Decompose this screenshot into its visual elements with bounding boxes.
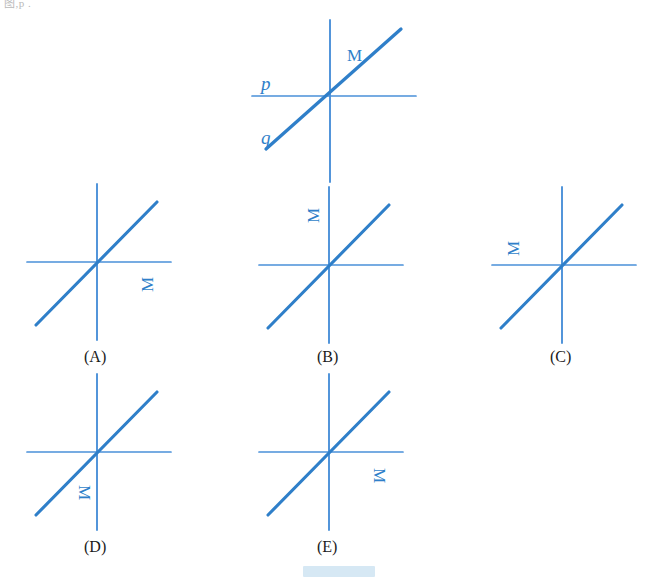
option-letter-c: (C) bbox=[550, 348, 571, 366]
option-a-label-m: M bbox=[139, 277, 156, 292]
option-panel-c[interactable]: M bbox=[492, 185, 642, 345]
footer-watermark-bar bbox=[303, 566, 375, 577]
option-e-label-m: M bbox=[371, 468, 388, 483]
option-d-label-m: M bbox=[76, 485, 93, 500]
option-b-svg bbox=[259, 185, 409, 345]
reference-diagram: M p q bbox=[240, 14, 430, 194]
option-letter-b: (B) bbox=[317, 348, 338, 366]
option-c-svg bbox=[492, 185, 642, 345]
option-letter-a: (A) bbox=[84, 348, 106, 366]
option-letter-e: (E) bbox=[317, 538, 337, 556]
option-panel-a[interactable]: M bbox=[27, 182, 177, 342]
reference-label-q: q bbox=[261, 128, 271, 147]
option-panel-d[interactable]: M bbox=[27, 372, 177, 532]
option-panel-e[interactable]: M bbox=[259, 372, 409, 532]
corner-caption: 图,p . bbox=[4, 0, 31, 10]
option-e-svg bbox=[259, 372, 409, 532]
reference-label-p: p bbox=[261, 74, 271, 93]
reference-label-m: M bbox=[347, 47, 362, 64]
figure-page: 图,p . M p q M (A) M bbox=[0, 0, 667, 580]
option-d-svg bbox=[27, 372, 177, 532]
option-panel-b[interactable]: M bbox=[259, 185, 409, 345]
reference-diagram-svg bbox=[240, 14, 430, 194]
option-c-label-m: M bbox=[505, 241, 522, 256]
option-letter-d: (D) bbox=[84, 538, 106, 556]
reference-line-q bbox=[266, 29, 401, 149]
option-b-label-m: M bbox=[305, 208, 322, 223]
option-a-svg bbox=[27, 182, 177, 342]
